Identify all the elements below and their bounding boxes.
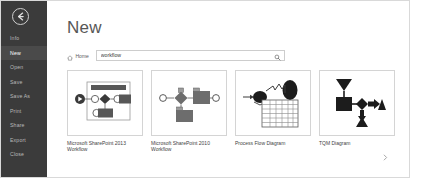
template-card-tqm[interactable]: TQM Diagram [319,70,395,152]
sidebar-item-label: Export [10,137,26,143]
backstage-content: New Home workflow [47,1,409,177]
sidebar-item-label: Open [10,64,23,70]
sidebar-item-label: Info [10,35,19,41]
template-caption: Microsoft SharePoint 2010 Workflow [151,140,225,152]
breadcrumb[interactable]: Home [67,47,89,65]
sharepoint-2013-workflow-thumbnail[interactable] [67,70,143,136]
sidebar-item-new[interactable]: New [1,46,47,61]
sidebar-item-share[interactable]: Share [1,118,47,133]
template-grid: Microsoft SharePoint 2013 Workflow [67,70,409,152]
backstage-sidebar: Info New Open Save Save As Print Share E… [1,1,47,177]
page-title: New [67,19,409,36]
template-card-sharepoint-2013[interactable]: Microsoft SharePoint 2013 Workflow [67,70,143,152]
sidebar-item-label: Close [10,151,24,157]
sidebar-menu: Info New Open Save Save As Print Share E… [1,31,47,162]
sidebar-item-export[interactable]: Export [1,133,47,148]
chevron-right-icon[interactable] [381,153,389,161]
template-caption: Process Flow Diagram [235,140,309,146]
sidebar-item-label: Share [10,122,25,128]
sidebar-item-save[interactable]: Save [1,75,47,90]
search-row: Home workflow [67,50,409,61]
tqm-diagram-thumbnail[interactable] [319,70,395,136]
sidebar-item-open[interactable]: Open [1,60,47,75]
home-icon [67,47,73,65]
template-card-process-flow[interactable]: Process Flow Diagram [235,70,311,152]
sidebar-item-info[interactable]: Info [1,31,47,46]
sidebar-item-label: Save As [10,93,30,99]
sharepoint-2010-workflow-thumbnail[interactable] [151,70,227,136]
process-flow-diagram-thumbnail[interactable] [235,70,311,136]
sidebar-item-label: New [10,50,21,56]
search-input[interactable]: workflow [96,50,285,61]
template-caption: Microsoft SharePoint 2013 Workflow [67,140,141,152]
application-window: Info New Open Save Save As Print Share E… [0,0,410,178]
template-card-sharepoint-2010[interactable]: Microsoft SharePoint 2010 Workflow [151,70,227,152]
search-input-value[interactable]: workflow [101,51,274,60]
back-arrow-icon[interactable] [12,8,29,25]
sidebar-item-close[interactable]: Close [1,147,47,162]
sidebar-item-label: Print [10,108,21,114]
search-icon[interactable] [274,47,281,65]
sidebar-item-label: Save [10,79,22,85]
sidebar-item-print[interactable]: Print [1,104,47,119]
breadcrumb-home-label: Home [76,53,89,59]
sidebar-item-save-as[interactable]: Save As [1,89,47,104]
template-caption: TQM Diagram [319,140,393,146]
